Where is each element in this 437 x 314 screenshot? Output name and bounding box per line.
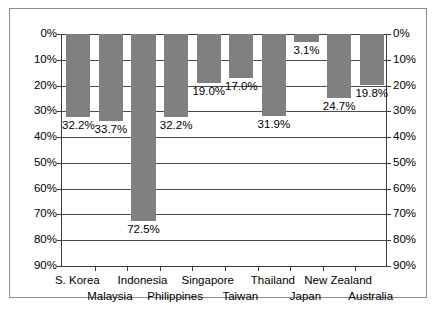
chart-frame: 0%10%20%30%40%50%60%70%80%90% 0%10%20%30… bbox=[9, 8, 427, 298]
bar bbox=[294, 34, 318, 42]
y-axis-tick-label-left: 90% bbox=[34, 260, 57, 272]
plot-area: 0%10%20%30%40%50%60%70%80%90% 0%10%20%30… bbox=[61, 34, 387, 266]
y-axis-tick-label-right: 10% bbox=[393, 54, 416, 66]
y-axis-tick-mark-right bbox=[386, 214, 391, 215]
x-axis-tick-mark bbox=[192, 266, 193, 271]
y-axis-tick-label-left: 50% bbox=[34, 157, 57, 169]
y-axis-tick-label-left: 20% bbox=[34, 80, 57, 92]
y-axis-tick-label-left: 30% bbox=[34, 105, 57, 117]
data-label: 17.0% bbox=[225, 81, 258, 93]
x-axis-category-label: Australia bbox=[348, 291, 393, 303]
y-axis-tick-mark-left bbox=[57, 137, 62, 138]
y-axis-tick-label-right: 20% bbox=[393, 80, 416, 92]
y-axis-tick-mark-left bbox=[57, 60, 62, 61]
data-label: 19.8% bbox=[355, 88, 388, 100]
data-label: 3.1% bbox=[290, 45, 323, 57]
gridline bbox=[62, 189, 386, 190]
x-axis-tick-mark bbox=[323, 266, 324, 271]
y-axis-tick-label-right: 30% bbox=[393, 105, 416, 117]
gridline bbox=[62, 266, 386, 267]
y-axis-tick-mark-right bbox=[386, 266, 391, 267]
data-label: 32.2% bbox=[160, 120, 193, 132]
gridline bbox=[62, 163, 386, 164]
y-axis-tick-mark-left bbox=[57, 240, 62, 241]
x-axis-category-label: Thailand bbox=[251, 275, 295, 287]
data-label: 33.7% bbox=[95, 124, 128, 136]
x-axis-tick-mark bbox=[355, 266, 356, 271]
data-label: 19.0% bbox=[192, 86, 225, 98]
bar bbox=[197, 34, 221, 83]
bar bbox=[229, 34, 253, 78]
x-axis-tick-mark bbox=[225, 266, 226, 271]
y-axis-tick-mark-right bbox=[386, 137, 391, 138]
x-axis-category-label: Indonesia bbox=[118, 275, 168, 287]
gridline bbox=[62, 214, 386, 215]
y-axis-tick-label-right: 80% bbox=[393, 234, 416, 246]
y-axis-tick-label-left: 60% bbox=[34, 183, 57, 195]
x-axis-tick-mark bbox=[290, 266, 291, 271]
bar bbox=[66, 34, 90, 117]
data-label: 24.7% bbox=[323, 101, 356, 113]
y-axis-tick-mark-left bbox=[57, 111, 62, 112]
y-axis-tick-label-right: 90% bbox=[393, 260, 416, 272]
y-axis-tick-label-right: 50% bbox=[393, 157, 416, 169]
bar bbox=[327, 34, 351, 98]
y-axis-tick-mark-left bbox=[57, 189, 62, 190]
x-axis-category-label: Singapore bbox=[181, 275, 233, 287]
y-axis-tick-label-left: 10% bbox=[34, 54, 57, 66]
bar bbox=[360, 34, 384, 85]
data-label: 31.9% bbox=[258, 119, 291, 131]
y-axis-tick-label-right: 60% bbox=[393, 183, 416, 195]
y-axis-tick-mark-right bbox=[386, 240, 391, 241]
y-axis-tick-mark-left bbox=[57, 214, 62, 215]
y-axis-tick-mark-right bbox=[386, 111, 391, 112]
y-axis-tick-mark-right bbox=[386, 189, 391, 190]
data-label: 72.5% bbox=[127, 224, 160, 236]
y-axis-tick-label-left: 80% bbox=[34, 234, 57, 246]
y-axis-tick-label-right: 40% bbox=[393, 131, 416, 143]
gridline bbox=[62, 240, 386, 241]
x-axis-category-label: New Zealand bbox=[304, 275, 372, 287]
y-axis-tick-label-left: 70% bbox=[34, 208, 57, 220]
x-axis-category-label: Taiwan bbox=[222, 291, 258, 303]
y-axis-tick-mark-left bbox=[57, 163, 62, 164]
x-axis-tick-mark bbox=[258, 266, 259, 271]
data-label: 32.2% bbox=[62, 120, 95, 132]
y-axis-tick-label-left: 0% bbox=[40, 28, 57, 40]
x-axis-tick-mark bbox=[160, 266, 161, 271]
bar bbox=[131, 34, 155, 221]
x-axis-category-label: Japan bbox=[290, 291, 321, 303]
y-axis-tick-mark-right bbox=[386, 60, 391, 61]
x-axis-category-label: Philippines bbox=[147, 291, 203, 303]
x-axis-tick-mark bbox=[95, 266, 96, 271]
y-axis-tick-mark-right bbox=[386, 34, 391, 35]
y-axis-tick-label-right: 70% bbox=[393, 208, 416, 220]
y-axis-tick-mark-left bbox=[57, 266, 62, 267]
y-axis-tick-mark-right bbox=[386, 163, 391, 164]
x-axis-tick-mark bbox=[127, 266, 128, 271]
y-axis-tick-label-right: 0% bbox=[393, 28, 410, 40]
x-axis-category-label: S. Korea bbox=[55, 275, 100, 287]
bar bbox=[99, 34, 123, 121]
bar bbox=[164, 34, 188, 117]
y-axis-tick-label-left: 40% bbox=[34, 131, 57, 143]
y-axis-tick-mark-left bbox=[57, 34, 62, 35]
x-axis-category-label: Malaysia bbox=[87, 291, 132, 303]
gridline bbox=[62, 137, 386, 138]
bar bbox=[262, 34, 286, 116]
y-axis-tick-mark-left bbox=[57, 86, 62, 87]
